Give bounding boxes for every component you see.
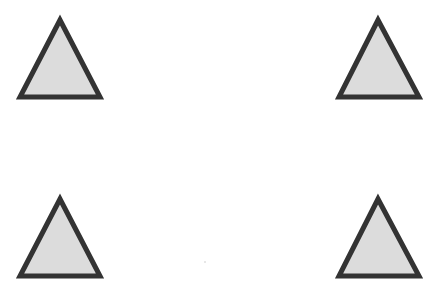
triangle-bottom-right	[339, 199, 419, 276]
triangle-top-right	[339, 20, 419, 97]
speck-mark	[204, 261, 206, 263]
diagram-canvas	[0, 0, 445, 285]
triangle-bottom-left	[20, 199, 100, 276]
triangle-top-left	[20, 20, 100, 97]
